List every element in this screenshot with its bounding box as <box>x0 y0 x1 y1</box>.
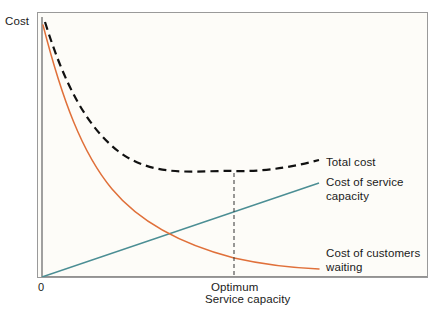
x-axis-tick-origin: 0 <box>38 281 44 293</box>
x-axis-title: Service capacity <box>205 293 290 305</box>
series-label-total-cost: Total cost <box>326 156 376 170</box>
plot-canvas <box>38 13 427 277</box>
x-axis-tick-optimum: Optimum <box>211 281 258 293</box>
y-axis-title: Cost <box>5 15 29 27</box>
series-line-customers-waiting <box>43 25 319 269</box>
plot-frame <box>37 12 428 278</box>
cost-vs-service-capacity-chart: Cost Service capacity 0 Optimum Total co… <box>0 0 443 315</box>
series-label-service-capacity: Cost of service capacity <box>326 176 404 203</box>
series-label-customers-waiting: Cost of customers waiting <box>326 247 420 274</box>
series-line-service-capacity <box>42 183 319 277</box>
